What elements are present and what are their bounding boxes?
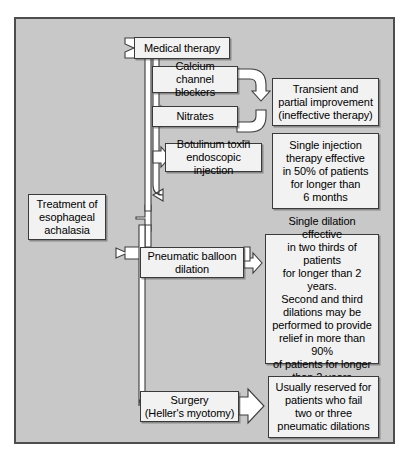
node-pneumatic-outcome-line-6: performed to provide [269,319,375,332]
node-surgery-outcome-line-4: pneumatic dilations [272,420,375,433]
node-pneumatic-outcome-line-2: in two thirds of patients [269,241,375,267]
node-root-line-1: Treatment of [32,198,102,211]
node-surgery-outcome-line-3: two or three [272,407,375,420]
node-pneumatic-balloon-dilation[interactable]: Pneumatic balloon dilation [140,247,244,278]
node-calcium-line-1: Calcium channel [156,60,234,86]
node-pneumatic-outcome-line-5: dilations may be [269,306,375,319]
node-botulinum-line-2: endoscopic injection [169,151,258,177]
node-pneumatic-line-2: dilation [144,263,240,276]
node-surgery-outcome[interactable]: Usually reserved for patients who fail t… [268,376,379,438]
node-nitrates-line-1: Nitrates [156,110,234,123]
flowchart-canvas: Treatment of esophageal achalasia Medica… [0,0,408,460]
node-transient-line-2: partial improvement [276,96,375,109]
node-botulinum-outcome-line-2: therapy effective [276,152,375,165]
node-calcium-channel-blockers[interactable]: Calcium channel blockers [152,66,238,93]
node-pneumatic-outcome-line-8: of patients for longer [269,358,375,371]
node-botulinum-line-1: Botulinum toxin [169,138,258,151]
node-transient-line-1: Transient and [276,83,375,96]
node-pneumatic-outcome-line-4: Second and third [269,293,375,306]
node-transient-line-3: (ineffective therapy) [276,109,375,122]
node-surgery-line-1: Surgery [144,394,235,407]
node-surgery-outcome-line-2: patients who fail [272,394,375,407]
node-surgery-line-2: (Heller's myotomy) [144,407,235,420]
node-botulinum-outcome[interactable]: Single injection therapy effective in 50… [272,133,379,209]
node-pneumatic-outcome-line-7: relief in more than 90% [269,332,375,358]
node-surgery-outcome-line-1: Usually reserved for [272,381,375,394]
node-pneumatic-outcome-line-1: Single dilation effective [269,215,375,241]
node-botulinum-outcome-line-3: in 50% of patients [276,165,375,178]
node-botulinum-outcome-line-1: Single injection [276,139,375,152]
node-medical-therapy-line-1: Medical therapy [138,42,226,55]
node-pneumatic-line-1: Pneumatic balloon [144,250,240,263]
node-transient-improvement[interactable]: Transient and partial improvement (ineff… [272,78,379,126]
node-root-line-3: achalasia [32,224,102,237]
node-root-line-2: esophageal [32,211,102,224]
node-calcium-line-2: blockers [156,86,234,99]
node-nitrates[interactable]: Nitrates [152,106,238,127]
node-botulinum-toxin[interactable]: Botulinum toxin endoscopic injection [165,143,262,172]
node-botulinum-outcome-line-5: 6 months [276,191,375,204]
node-pneumatic-outcome[interactable]: Single dilation effective in two thirds … [265,234,379,364]
node-pneumatic-outcome-line-3: for longer than 2 years. [269,267,375,293]
node-medical-therapy[interactable]: Medical therapy [134,37,230,59]
node-botulinum-outcome-line-4: for longer than [276,178,375,191]
node-root[interactable]: Treatment of esophageal achalasia [28,194,106,240]
node-surgery[interactable]: Surgery (Heller's myotomy) [140,391,239,422]
